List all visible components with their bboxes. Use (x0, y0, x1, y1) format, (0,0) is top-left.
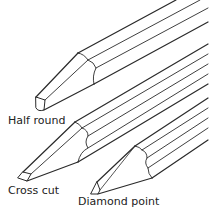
half-round-label: Half round (8, 115, 65, 126)
cross-cut-pencil (18, 44, 208, 181)
cross-cut-label: Cross cut (8, 185, 59, 196)
pencil-points-illustration (0, 0, 212, 208)
diamond-point-label: Diamond point (78, 196, 159, 207)
